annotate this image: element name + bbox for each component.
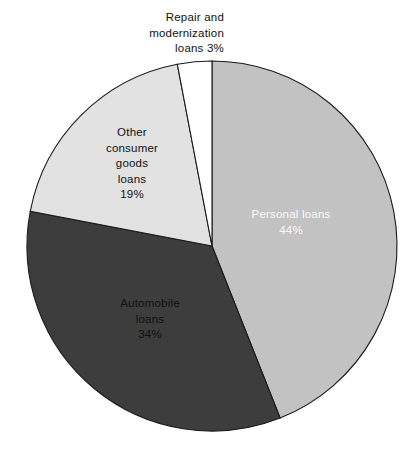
pie-label-line: 44% (279, 224, 303, 236)
pie-chart-canvas: Personal loans44%Automobileloans34%Other… (0, 0, 420, 455)
pie-label-line: 19% (120, 188, 144, 200)
pie-label-line: 34% (138, 328, 162, 340)
pie-slices-group (27, 61, 397, 431)
pie-label-repair-and-modernization-loans: Repair andmodernizationloans 3% (149, 11, 224, 54)
pie-label-line: goods (116, 157, 148, 169)
pie-label-line: loans (118, 173, 147, 185)
pie-chart-figure: Personal loans44%Automobileloans34%Other… (0, 0, 420, 455)
pie-label-line: modernization (149, 27, 224, 39)
pie-label-line: Repair and (166, 11, 224, 23)
pie-label-line: consumer (106, 142, 158, 154)
pie-label-line: Personal loans (252, 208, 331, 220)
pie-label-line: loans (136, 313, 165, 325)
pie-label-line: loans 3% (175, 42, 224, 54)
pie-label-line: Automobile (120, 297, 180, 309)
pie-label-line: Other (117, 126, 147, 138)
